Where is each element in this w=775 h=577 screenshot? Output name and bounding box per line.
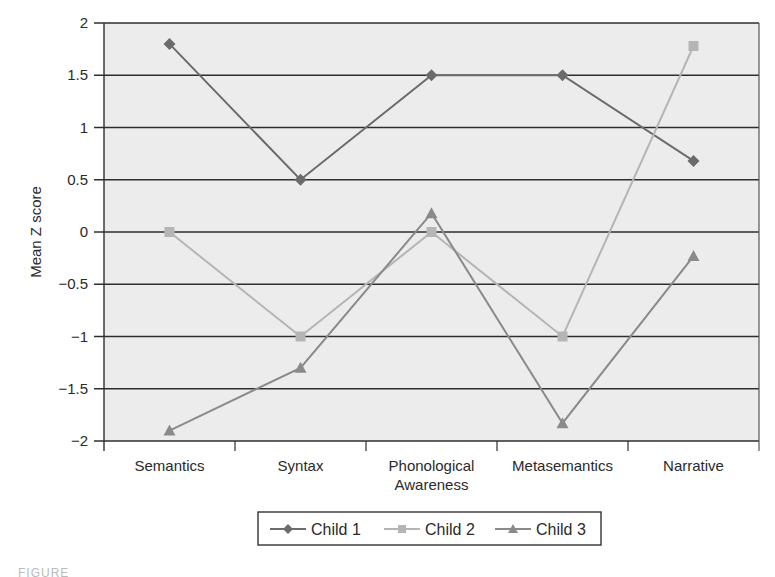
x-tick-label: Semantics [134, 457, 204, 474]
x-tick-label: Syntax [278, 457, 324, 474]
data-point [165, 227, 175, 237]
x-tick-label: Awareness [395, 476, 469, 493]
y-tick-label: −2 [71, 432, 88, 449]
y-tick-label: 1 [80, 119, 88, 136]
y-tick-label: 2 [80, 14, 88, 31]
x-tick-label: Narrative [663, 457, 724, 474]
y-tick-label: −1.5 [58, 380, 88, 397]
line-chart: 21.510.50−0.5−1−1.5−2 SemanticsSyntaxPho… [0, 0, 775, 577]
data-point [689, 41, 699, 51]
data-point [427, 227, 437, 237]
x-axis-ticks: SemanticsSyntaxPhonologicalAwarenessMeta… [134, 441, 723, 493]
legend-label: Child 3 [536, 521, 586, 538]
y-tick-label: 1.5 [67, 66, 88, 83]
legend-label: Child 2 [425, 521, 475, 538]
y-tick-label: 0 [80, 223, 88, 240]
legend-label: Child 1 [311, 521, 361, 538]
legend-marker-square-icon [398, 525, 406, 533]
data-point [296, 332, 306, 342]
x-tick-label: Metasemantics [512, 457, 613, 474]
y-axis-title: Mean Z score [27, 186, 44, 278]
y-tick-label: −1 [71, 328, 88, 345]
y-tick-label: −0.5 [58, 275, 88, 292]
data-point [558, 332, 568, 342]
legend: Child 1Child 2Child 3 [258, 512, 601, 545]
y-axis-ticks: 21.510.50−0.5−1−1.5−2 [58, 14, 88, 449]
figure-caption: FIGURE [18, 566, 69, 577]
y-tick-label: 0.5 [67, 171, 88, 188]
x-tick-label: Phonological [389, 457, 475, 474]
